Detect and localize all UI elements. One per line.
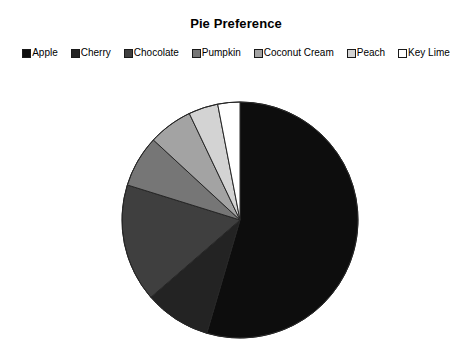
pie-chart-figure: Pie Preference AppleCherryChocolatePumpk…: [0, 0, 472, 351]
pie-plot-area: [0, 0, 472, 351]
pie-svg: [0, 0, 472, 351]
